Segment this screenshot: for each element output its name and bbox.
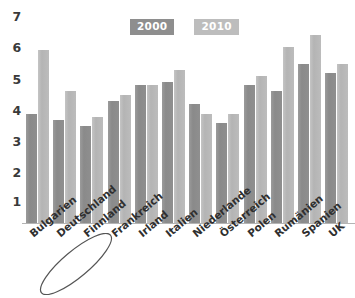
- bar-2010-niederlande: [201, 114, 212, 223]
- bar-2010-uk: [337, 64, 348, 223]
- y-axis-tick-label: 2: [13, 167, 22, 180]
- y-axis-tick-label: 6: [13, 42, 22, 55]
- bar-2010-rumänien: [283, 47, 294, 223]
- y-axis-tick-label: 7: [13, 11, 22, 24]
- bar-2000-bulgarien: [26, 114, 37, 223]
- bar-2000-rumänien: [271, 91, 282, 223]
- y-axis: 7 6 5 4 3 2 1: [0, 0, 24, 224]
- bar-2010-bulgarien: [38, 50, 49, 223]
- bar-2000-italien: [162, 82, 173, 223]
- plot-area: [24, 0, 355, 223]
- y-axis-tick-label: 3: [13, 136, 22, 149]
- y-axis-tick-label: 1: [13, 196, 22, 209]
- x-axis-labels: BulgarienDeutschlandFinnlandFrankreichIr…: [24, 226, 355, 298]
- y-axis-tick-label: 5: [13, 74, 22, 87]
- y-axis-tick-label: 4: [13, 105, 22, 118]
- bar-chart: 7 6 5 4 3 2 1 2000 2010 BulgarienDeutsch…: [0, 0, 355, 298]
- bar-2010-italien: [174, 70, 185, 223]
